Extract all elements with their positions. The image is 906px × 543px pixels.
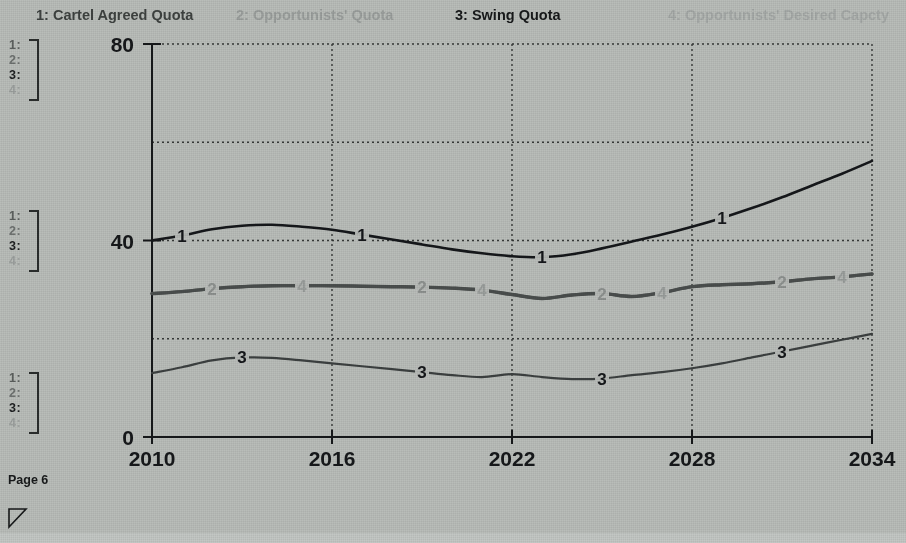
series-point-label-1: 1 <box>717 209 726 228</box>
y-tick-label: 80 <box>111 33 134 56</box>
series-point-label-4: 4 <box>657 284 667 303</box>
chart-canvas: 4444222233331111 04080201020162022202820… <box>0 0 906 470</box>
series-point-label-3: 3 <box>597 370 606 389</box>
line-chart[interactable]: 4444222233331111 04080201020162022202820… <box>0 0 906 470</box>
series-point-label-1: 1 <box>357 226 366 245</box>
series-point-label-4: 4 <box>477 281 487 300</box>
x-tick-label: 2028 <box>669 447 716 470</box>
x-tick-label: 2010 <box>129 447 176 470</box>
series-point-label-2: 2 <box>417 278 426 297</box>
series-point-label-2: 2 <box>777 273 786 292</box>
series-point-label-1: 1 <box>537 248 546 267</box>
y-tick-label: 40 <box>111 230 134 253</box>
chart-axes <box>143 44 872 444</box>
chart-gridlines <box>152 44 872 437</box>
x-tick-label: 2016 <box>309 447 356 470</box>
series-point-label-4: 4 <box>837 268 847 287</box>
series-point-label-2: 2 <box>207 280 216 299</box>
series-line-2 <box>152 274 872 299</box>
series-point-label-4: 4 <box>297 277 307 296</box>
series-point-label-3: 3 <box>417 363 426 382</box>
resize-handle-icon[interactable] <box>8 508 32 532</box>
series-point-label-1: 1 <box>177 227 186 246</box>
y-tick-label: 0 <box>122 426 134 449</box>
page-label: Page 6 <box>8 473 48 487</box>
x-tick-label: 2034 <box>849 447 896 470</box>
x-tick-label: 2022 <box>489 447 536 470</box>
series-point-label-2: 2 <box>597 285 606 304</box>
chart-tick-labels: 0408020102016202220282034Years <box>111 33 896 470</box>
series-point-label-3: 3 <box>237 348 246 367</box>
series-point-label-3: 3 <box>777 343 786 362</box>
window-bottom-strip <box>0 533 906 543</box>
